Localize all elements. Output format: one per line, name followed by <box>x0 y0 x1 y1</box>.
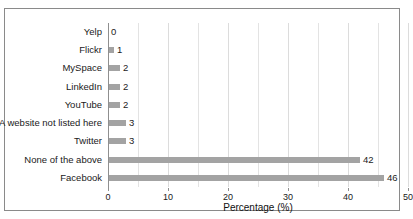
bar-value-label: 1 <box>117 41 122 59</box>
bar-value-label: 0 <box>111 23 116 41</box>
category-label: None of the above <box>24 151 102 169</box>
x-tick <box>288 188 289 191</box>
category-label: LinkedIn <box>66 78 102 96</box>
category-label: Yelp <box>84 23 102 41</box>
bar-row: Flickr1 <box>108 41 408 59</box>
bar[interactable] <box>108 120 126 126</box>
x-tick <box>348 188 349 191</box>
bar[interactable] <box>108 65 120 71</box>
x-tick <box>408 188 409 191</box>
category-label: Twitter <box>74 132 102 150</box>
x-tick-label: 10 <box>163 192 173 202</box>
y-axis-line <box>108 23 109 188</box>
bar[interactable] <box>108 138 126 144</box>
gridline-major <box>408 23 409 187</box>
bar[interactable] <box>108 102 120 108</box>
x-tick <box>168 188 169 191</box>
bar-value-label: 2 <box>123 96 128 114</box>
chart-figure-frame: Yelp0Flickr1MySpace2LinkedIn2YouTube2A w… <box>4 8 400 211</box>
category-label: Facebook <box>60 169 102 187</box>
x-tick <box>108 188 109 191</box>
chart-title-strip <box>0 0 404 8</box>
x-tick-label: 20 <box>223 192 233 202</box>
bar-value-label: 3 <box>129 114 134 132</box>
bar-row: LinkedIn2 <box>108 78 408 96</box>
x-tick <box>228 188 229 191</box>
bar[interactable] <box>108 175 384 181</box>
x-tick-label: 40 <box>343 192 353 202</box>
bar-value-label: 3 <box>129 132 134 150</box>
bar-row: YouTube2 <box>108 96 408 114</box>
bar[interactable] <box>108 157 360 163</box>
bar-row: None of the above42 <box>108 151 408 169</box>
category-label: A website not listed here <box>0 114 102 132</box>
bar-row: A website not listed here3 <box>108 114 408 132</box>
bar-row: Facebook46 <box>108 169 408 187</box>
x-axis: 01020304050 <box>108 188 408 189</box>
bar[interactable] <box>108 84 120 90</box>
category-label: MySpace <box>62 59 102 77</box>
bar-value-label: 42 <box>363 151 374 169</box>
category-label: YouTube <box>65 96 102 114</box>
plot-area: Yelp0Flickr1MySpace2LinkedIn2YouTube2A w… <box>108 23 408 187</box>
x-tick-label: 50 <box>403 192 413 202</box>
bar-row: Twitter3 <box>108 132 408 150</box>
x-tick-label: 0 <box>105 192 110 202</box>
category-label: Flickr <box>79 41 102 59</box>
bar-value-label: 46 <box>387 169 398 187</box>
bar-value-label: 2 <box>123 59 128 77</box>
x-axis-title: Percentage (%) <box>108 202 408 213</box>
bar-row: Yelp0 <box>108 23 408 41</box>
x-tick-label: 30 <box>283 192 293 202</box>
bar-row: MySpace2 <box>108 59 408 77</box>
bar-value-label: 2 <box>123 78 128 96</box>
